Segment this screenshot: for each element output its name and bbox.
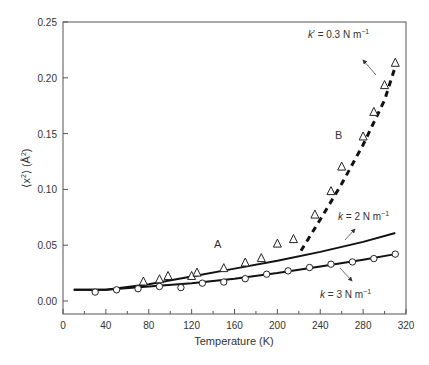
annotation-k3: k = 3 N m−1 [320, 288, 371, 300]
circle-marker [92, 289, 98, 295]
triangle-marker [155, 275, 163, 283]
y-tick-label: 0.05 [38, 240, 58, 251]
fit-line [301, 67, 395, 251]
triangle-marker [289, 235, 297, 243]
triangle-marker [273, 239, 281, 247]
circle-marker [178, 284, 184, 290]
triangle-marker [327, 187, 335, 195]
x-axis: 04080120160200240280320 [60, 309, 415, 331]
circle-marker [199, 280, 205, 286]
triangle-marker [381, 81, 389, 89]
x-tick-label: 0 [60, 320, 66, 331]
circle-marker [113, 287, 119, 293]
x-tick-label: 320 [398, 320, 415, 331]
plot-frame [63, 22, 406, 314]
triangle-marker [370, 107, 378, 115]
circle-marker [242, 275, 248, 281]
circle-marker [306, 264, 312, 270]
annotation-k-prime: k′ = 0.3 N m−1 [308, 28, 369, 40]
y-tick-label: 0.25 [38, 17, 58, 28]
circle-marker [371, 255, 377, 261]
y-tick-label: 0.20 [38, 73, 58, 84]
arrow-k3 [340, 268, 352, 281]
x-tick-label: 80 [143, 320, 155, 331]
data-markers [92, 58, 399, 295]
circle-marker [221, 279, 227, 285]
circle-marker [349, 259, 355, 265]
x-tick-label: 160 [226, 320, 243, 331]
x-tick-label: 200 [269, 320, 286, 331]
triangle-marker [257, 254, 265, 262]
circle-marker [156, 283, 162, 289]
y-tick-label: 0.15 [38, 129, 58, 140]
chart: 04080120160200240280320 0.000.050.100.15… [0, 0, 429, 365]
triangle-marker [338, 162, 346, 170]
y-tick-label: 0.00 [38, 296, 58, 307]
y-axis-label: ⟨x2⟩ (Å2) [20, 148, 32, 187]
annotation-B: B [335, 129, 342, 141]
circle-marker [285, 268, 291, 274]
y-tick-label: 0.10 [38, 184, 58, 195]
triangle-marker [139, 277, 147, 285]
fit-lines [74, 67, 396, 290]
x-tick-label: 280 [355, 320, 372, 331]
annotation-k2: k = 2 N m−1 [338, 210, 389, 222]
x-tick-label: 240 [312, 320, 329, 331]
triangle-marker [241, 258, 249, 266]
x-tick-label: 120 [183, 320, 200, 331]
circle-marker [328, 261, 334, 267]
fit-line [74, 254, 396, 290]
circle-marker [392, 251, 398, 257]
triangle-marker [164, 271, 172, 279]
x-tick-label: 40 [100, 320, 112, 331]
arrow-k-prime [363, 60, 376, 75]
triangle-marker [311, 210, 319, 218]
arrow-k2 [345, 229, 355, 240]
circle-marker [263, 271, 269, 277]
annotation-A: A [214, 238, 222, 250]
circle-marker [135, 286, 141, 292]
x-axis-label: Temperature (K) [194, 335, 273, 347]
triangle-marker [391, 58, 399, 66]
triangle-marker [193, 268, 201, 276]
triangle-marker [220, 264, 228, 272]
